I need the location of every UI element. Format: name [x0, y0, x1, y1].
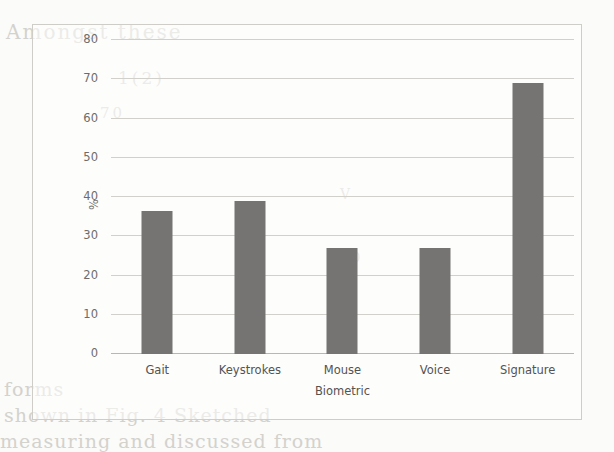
y-axis-tick-label: 0 [91, 346, 98, 360]
bar[interactable] [512, 83, 543, 354]
x-axis-tick-label: Gait [145, 363, 169, 377]
x-axis-tick-label: Mouse [324, 363, 361, 377]
y-axis-tick-label: 40 [83, 189, 98, 203]
y-axis-tick-label: 50 [83, 150, 98, 164]
x-axis-tick-label: Voice [420, 363, 451, 377]
plot-area: 80706050403020100 GaitKeystrokesMouseVoi… [111, 40, 574, 354]
y-axis-tick-label: 20 [83, 268, 98, 282]
ghost-text-line: measuring and discussed from [0, 430, 323, 452]
bar-group[interactable]: Gait [111, 40, 204, 354]
bar-group[interactable]: Signature [481, 40, 574, 354]
bar-group[interactable]: Voice [389, 40, 482, 354]
bar[interactable] [234, 201, 265, 354]
x-axis-tick-label: Keystrokes [219, 363, 281, 377]
y-axis-tick-label: 60 [83, 111, 98, 125]
y-axis-tick-label: 70 [83, 71, 98, 85]
bar[interactable] [142, 211, 173, 354]
bar-group[interactable]: Keystrokes [204, 40, 297, 354]
bar-chart: % 80706050403020100 GaitKeystrokesMouseV… [32, 24, 582, 420]
bar-series: GaitKeystrokesMouseVoiceSignature [111, 40, 574, 354]
x-axis-tick-label: Signature [500, 363, 555, 377]
x-axis-title: Biometric [111, 384, 574, 398]
bar-group[interactable]: Mouse [296, 40, 389, 354]
bar[interactable] [327, 248, 358, 354]
y-axis-tick-label: 30 [83, 228, 98, 242]
bar[interactable] [420, 248, 451, 354]
y-axis-tick-label: 10 [83, 307, 98, 321]
y-axis-tick-label: 80 [83, 32, 98, 46]
